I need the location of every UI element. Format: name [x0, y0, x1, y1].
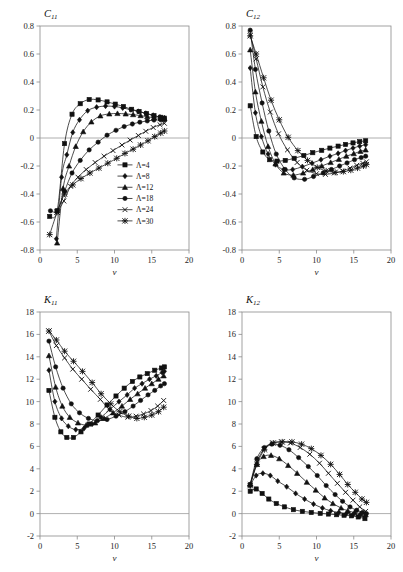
panel-c12: C12-0.8-0.6-0.4-0.200.20.40.60.805101520…	[202, 0, 403, 286]
x-tick-label: 0	[38, 541, 42, 551]
legend-item[interactable]: Λ=8	[117, 172, 149, 181]
data-point-star	[276, 117, 282, 123]
data-point-square	[70, 112, 74, 116]
y-tick-label: 0.8	[23, 21, 34, 31]
y-tick-label: 0.6	[225, 49, 236, 59]
data-point-cross	[98, 397, 103, 402]
data-point-square	[123, 163, 127, 167]
data-point-circle	[54, 365, 58, 369]
y-tick-label: 4	[232, 464, 237, 474]
data-point-cross	[102, 154, 107, 159]
x-tick-label: 20	[387, 255, 396, 265]
data-point-star	[47, 232, 53, 238]
data-point-star	[89, 380, 95, 386]
legend-item[interactable]: Λ=18	[117, 194, 153, 203]
data-point-star	[318, 452, 324, 458]
data-point-star	[126, 413, 132, 419]
data-point-square	[318, 511, 322, 515]
data-point-star	[352, 489, 358, 495]
data-point-cross	[70, 367, 75, 372]
data-point-triangle	[98, 113, 103, 118]
data-point-circle	[248, 28, 252, 32]
data-point-diamond	[140, 381, 144, 386]
y-tick-label: 14	[26, 352, 35, 362]
data-point-diamond	[302, 496, 306, 501]
data-point-diamond	[253, 110, 257, 115]
data-point-square	[87, 97, 91, 101]
x-tick-label: 10	[312, 255, 321, 265]
data-point-star	[134, 415, 140, 421]
data-point-diamond	[117, 399, 121, 404]
panel-k11: K11-202468101214161805101520v	[0, 286, 201, 572]
legend-item[interactable]: Λ=24	[117, 205, 153, 214]
data-point-diamond	[86, 108, 90, 113]
x-axis-label: v	[315, 267, 319, 277]
data-point-circle	[302, 177, 306, 181]
panel-title: C11	[44, 8, 58, 21]
x-tick-label: 0	[240, 541, 244, 551]
data-point-circle	[114, 128, 118, 132]
legend-label: Λ=30	[136, 217, 154, 226]
data-point-triangle	[81, 129, 86, 134]
data-point-star	[323, 168, 329, 174]
y-tick-label: 8	[232, 419, 236, 429]
data-point-triangle	[336, 157, 341, 162]
data-point-circle	[162, 382, 166, 386]
data-point-star	[261, 75, 267, 81]
data-point-diamond	[53, 399, 57, 404]
data-point-triangle	[142, 386, 147, 391]
data-point-circle	[253, 67, 257, 71]
data-point-star	[114, 155, 120, 161]
x-tick-label: 10	[110, 541, 119, 551]
data-point-star	[122, 150, 128, 156]
data-point-diamond	[47, 368, 51, 373]
data-point-cross	[136, 133, 141, 138]
data-point-cross	[285, 147, 290, 152]
y-tick-label: -0.2	[223, 161, 236, 171]
y-tick-label: 12	[228, 374, 237, 384]
data-point-square	[254, 487, 258, 491]
y-tick-label: -0.2	[21, 161, 34, 171]
data-point-circle	[260, 101, 264, 105]
data-point-star	[71, 358, 77, 364]
data-point-square	[96, 98, 100, 102]
data-point-star	[46, 328, 52, 334]
data-point-star	[54, 209, 60, 215]
y-tick-label: 2	[232, 486, 236, 496]
data-point-diamond	[291, 167, 295, 172]
legend-item[interactable]: Λ=4	[117, 161, 149, 170]
data-point-cross	[128, 138, 133, 143]
y-tick-label: 18	[26, 307, 35, 317]
data-point-cross	[357, 504, 362, 509]
data-point-triangle	[135, 391, 140, 396]
y-tick-label: -0.8	[223, 245, 236, 255]
data-point-circle	[138, 120, 142, 124]
data-point-circle	[86, 416, 90, 420]
data-point-diamond	[60, 175, 64, 180]
data-point-cross	[343, 490, 348, 495]
legend-item[interactable]: Λ=30	[117, 217, 153, 226]
legend-item[interactable]: Λ=12	[117, 183, 153, 192]
data-point-star	[145, 138, 151, 144]
data-point-diamond	[125, 392, 129, 397]
data-point-diamond	[311, 501, 315, 506]
chart-c11: C11-0.8-0.6-0.4-0.200.20.40.60.805101520…	[0, 0, 201, 286]
data-point-square	[351, 141, 355, 145]
data-point-triangle	[338, 505, 343, 510]
x-tick-label: 15	[148, 255, 157, 265]
data-point-circle	[283, 167, 287, 171]
data-point-triangle	[328, 160, 333, 165]
data-point-star	[161, 404, 167, 410]
x-tick-label: 5	[75, 255, 79, 265]
data-point-square	[138, 375, 142, 379]
data-point-triangle	[60, 403, 65, 408]
data-point-star	[152, 134, 158, 140]
data-point-triangle	[128, 397, 133, 402]
data-point-diamond	[319, 157, 323, 162]
data-point-diamond	[294, 491, 298, 496]
legend-label: Λ=4	[136, 161, 150, 170]
y-tick-label: 0	[232, 133, 236, 143]
x-tick-label: 5	[277, 255, 281, 265]
data-point-circle	[153, 388, 157, 392]
data-point-cross	[62, 356, 67, 361]
